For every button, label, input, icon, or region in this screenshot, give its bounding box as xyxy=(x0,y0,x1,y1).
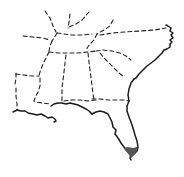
border-wv-va xyxy=(68,14,70,28)
border-ky-west xyxy=(23,36,50,40)
border-al-fl xyxy=(64,100,96,101)
southeast-us-map xyxy=(0,0,184,177)
border-va-inner xyxy=(97,20,113,34)
border-ga-fl xyxy=(92,99,129,101)
border-ar-south xyxy=(16,74,39,76)
border-ms-al xyxy=(62,55,66,103)
border-la-west xyxy=(16,88,17,110)
border-ky-tn-va xyxy=(57,33,92,35)
coastline-gulf-west xyxy=(13,110,56,122)
border-va-nc xyxy=(100,28,166,35)
border-tn-south-link xyxy=(52,33,57,41)
border-ky-tn-link xyxy=(49,41,52,51)
border-ar-la xyxy=(15,73,16,84)
border-al-ga xyxy=(88,53,94,100)
border-la-ms xyxy=(34,78,50,104)
border-tn-nc xyxy=(87,34,97,51)
coastline-atlantic xyxy=(128,25,173,101)
border-tn-north xyxy=(49,51,96,53)
border-ky-north xyxy=(45,11,56,32)
border-ar-east xyxy=(39,52,49,76)
border-ga-sc xyxy=(100,53,124,77)
coastline-gulf-central xyxy=(51,103,92,114)
border-va-north xyxy=(69,12,89,27)
highlighted-region-south-florida xyxy=(124,147,137,158)
